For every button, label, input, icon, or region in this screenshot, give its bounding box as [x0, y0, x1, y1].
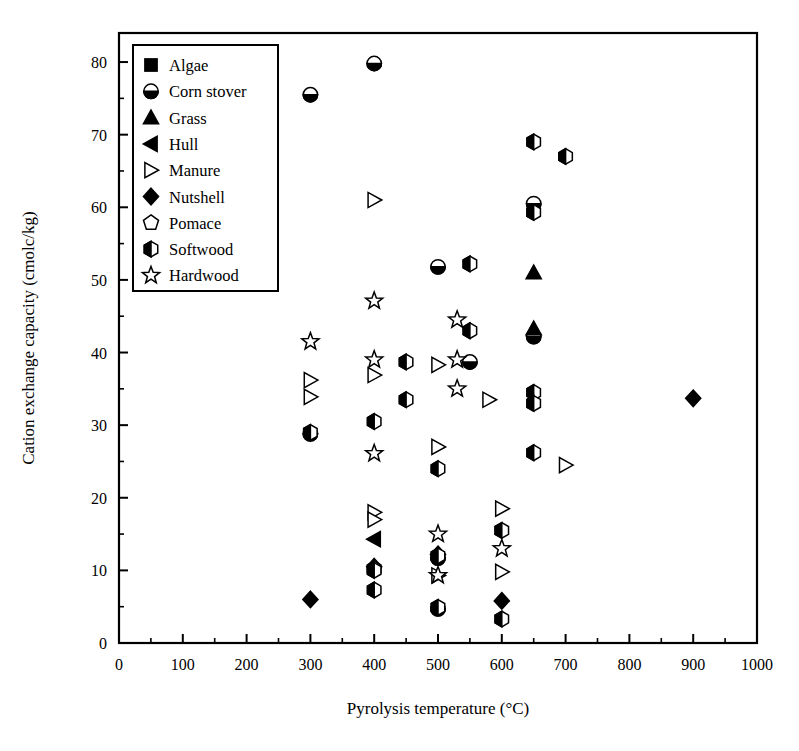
y-tick-label: 40	[91, 345, 107, 362]
marker-half-filled-circle	[367, 56, 381, 70]
y-tick-label: 10	[91, 562, 107, 579]
marker-half-filled-hexagon	[463, 323, 476, 339]
x-tick-label: 300	[298, 656, 322, 673]
x-tick-label: 200	[235, 656, 259, 673]
marker-half-filled-hexagon	[367, 563, 380, 579]
y-tick-label: 30	[91, 417, 107, 434]
marker-half-filled-hexagon	[559, 149, 572, 165]
legend-label-algae: Algae	[169, 56, 208, 75]
x-tick-label: 900	[681, 656, 705, 673]
legend-label-pomace: Pomace	[169, 214, 221, 233]
marker-half-filled-hexagon	[431, 600, 444, 616]
legend-label-softwood: Softwood	[169, 240, 234, 259]
y-tick-label: 50	[91, 272, 107, 289]
x-tick-label: 800	[617, 656, 641, 673]
marker-half-filled-hexagon	[463, 256, 476, 272]
marker-half-filled-circle	[303, 88, 317, 102]
marker-half-filled-hexagon	[399, 354, 412, 370]
marker-half-filled-hexagon	[527, 205, 540, 221]
x-tick-label: 400	[362, 656, 386, 673]
x-tick-label: 100	[171, 656, 195, 673]
marker-half-filled-hexagon	[367, 582, 380, 598]
marker-half-filled-hexagon	[304, 425, 317, 441]
legend-label-hardwood: Hardwood	[169, 266, 239, 285]
marker-half-filled-hexagon	[495, 611, 508, 627]
x-tick-label: 600	[490, 656, 514, 673]
marker-half-filled-hexagon	[144, 241, 157, 257]
y-tick-label: 80	[91, 54, 107, 71]
marker-half-filled-hexagon	[527, 396, 540, 412]
y-axis-title: Cation exchange capacity (cmolc/kg)	[19, 211, 38, 464]
y-tick-label: 20	[91, 490, 107, 507]
marker-half-filled-hexagon	[431, 461, 444, 477]
marker-half-filled-hexagon	[527, 134, 540, 150]
marker-half-filled-circle	[144, 84, 158, 98]
legend-label-nutshell: Nutshell	[169, 188, 225, 207]
x-axis-title: Pyrolysis temperature (°C)	[347, 699, 529, 718]
x-tick-label: 500	[426, 656, 450, 673]
y-tick-label: 60	[91, 199, 107, 216]
y-tick-label: 0	[99, 635, 107, 652]
x-tick-label: 700	[554, 656, 578, 673]
scatter-chart: 0100200300400500600700800900100001020304…	[0, 0, 799, 751]
marker-half-filled-hexagon	[399, 392, 412, 408]
marker-half-filled-circle	[431, 260, 445, 274]
legend-label-corn-stover: Corn stover	[169, 82, 247, 101]
marker-filled-square	[145, 59, 157, 71]
x-tick-label: 0	[115, 656, 123, 673]
marker-half-filled-hexagon	[367, 414, 380, 430]
x-tick-label: 1000	[741, 656, 773, 673]
legend-label-manure: Manure	[169, 161, 220, 180]
legend: AlgaeCorn stoverGrassHullManureNutshellP…	[133, 45, 278, 291]
marker-half-filled-hexagon	[495, 523, 508, 539]
marker-half-filled-hexagon	[527, 445, 540, 461]
y-tick-label: 70	[91, 127, 107, 144]
marker-half-filled-hexagon	[431, 548, 444, 564]
legend-label-grass: Grass	[169, 109, 207, 128]
plot-canvas: 0100200300400500600700800900100001020304…	[0, 0, 799, 751]
legend-label-hull: Hull	[169, 135, 199, 154]
